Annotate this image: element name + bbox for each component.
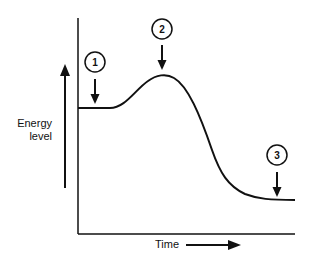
y-axis-label: Energy level: [10, 117, 52, 143]
marker-3-down-arrow-icon: [273, 187, 282, 197]
marker-2-label: 2: [159, 24, 165, 35]
marker-1-down-arrow-icon: [91, 94, 100, 104]
x-axis-label: Time: [155, 238, 179, 251]
marker-1-label: 1: [92, 57, 98, 68]
y-axis-label-line1: Energy: [10, 117, 52, 130]
time-right-arrow-icon: [186, 240, 241, 250]
marker-3-label: 3: [274, 150, 280, 161]
energy-up-arrow-icon: [60, 64, 70, 188]
energy-curve: [78, 75, 295, 200]
y-axis-label-line2: level: [10, 130, 52, 143]
marker-2-down-arrow-icon: [158, 60, 167, 70]
